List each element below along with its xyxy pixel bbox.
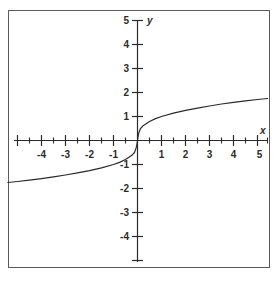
graph-figure: -4 -3 -2 -1 1 2 3 4 5 5 4 3 2 1 -1 -2 -3…	[0, 0, 279, 281]
y-tick-label--4: -4	[120, 232, 129, 242]
x-axis-label: x	[260, 126, 266, 136]
plot-canvas	[0, 0, 279, 281]
x-tick-label--4: -4	[37, 150, 46, 160]
y-tick-label-1: 1	[123, 112, 129, 122]
y-tick-label-4: 4	[123, 40, 129, 50]
y-tick-label--3: -3	[120, 208, 129, 218]
x-tick-label--2: -2	[85, 150, 94, 160]
y-tick-label--1: -1	[120, 160, 129, 170]
x-tick-label--3: -3	[61, 150, 70, 160]
x-tick-label-1: 1	[159, 150, 165, 160]
y-tick-label--2: -2	[120, 184, 129, 194]
y-tick-label-5: 5	[123, 16, 129, 26]
x-tick-label--1: -1	[109, 150, 118, 160]
x-tick-label-3: 3	[207, 150, 213, 160]
y-tick-label-2: 2	[123, 88, 129, 98]
x-tick-label-4: 4	[231, 150, 237, 160]
x-tick-label-2: 2	[183, 150, 189, 160]
x-tick-label-5: 5	[257, 150, 263, 160]
y-tick-label-3: 3	[123, 64, 129, 74]
y-axis-label: y	[147, 16, 153, 26]
